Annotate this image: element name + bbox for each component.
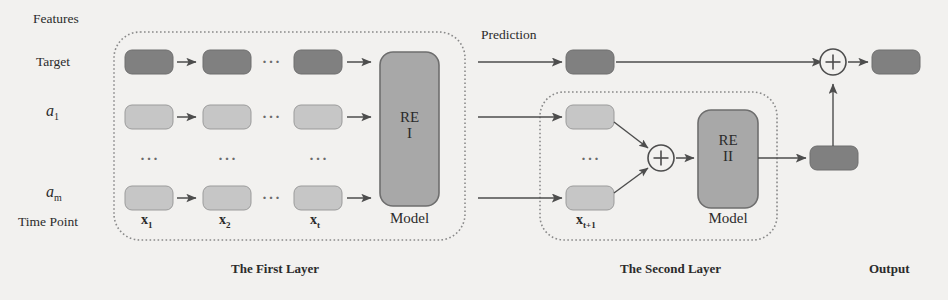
re-one-line2: I xyxy=(380,126,439,142)
target-box-t1 xyxy=(125,50,173,74)
feature-a1-box-t2 xyxy=(203,105,251,129)
target-row-label: Target xyxy=(36,55,70,69)
re-two-model-label: RE II xyxy=(698,133,758,165)
output-caption: Output xyxy=(869,262,909,275)
second-layer-box-top xyxy=(566,105,614,129)
target-box-t2 xyxy=(203,50,251,74)
ellipsis-row-am: ··· xyxy=(262,191,282,206)
feature-am-row-label: am xyxy=(46,184,62,203)
time-tick-t: xt xyxy=(310,213,320,230)
re-two-line2: II xyxy=(698,149,758,165)
diagram-svg xyxy=(0,0,948,300)
feature-a1-box-tt xyxy=(294,105,342,129)
re-one-line1: RE xyxy=(380,110,439,126)
feature-am-box-t2 xyxy=(203,186,251,210)
feature-a1-row-label: a1 xyxy=(46,103,59,122)
time-tick-1: x1 xyxy=(141,213,153,230)
time-tick-2: x2 xyxy=(219,213,231,230)
first-layer-caption: The First Layer xyxy=(231,262,319,275)
ellipsis-column-t1: ··· xyxy=(140,152,160,167)
re-one-model-caption: Model xyxy=(380,211,439,226)
re-one-model-label: RE I xyxy=(380,110,439,142)
ellipsis-column-t2: ··· xyxy=(218,152,238,167)
second-layer-box-bottom xyxy=(566,186,614,210)
re-two-model-caption: Model xyxy=(698,211,758,226)
feature-am-box-tt xyxy=(294,186,342,210)
second-layer-caption: The Second Layer xyxy=(620,262,721,275)
feature-am-box-t1 xyxy=(125,186,173,210)
features-axis-label: Features xyxy=(33,12,79,26)
ellipsis-row-a1: ··· xyxy=(262,110,282,125)
prediction-box xyxy=(566,50,614,74)
diagram-canvas: Features Target a1 am Time Point ··· ···… xyxy=(0,0,948,300)
feature-a1-box-t1 xyxy=(125,105,173,129)
ellipsis-second-layer: ··· xyxy=(581,152,601,167)
arrow-second-top-to-sum xyxy=(614,122,648,148)
time-point-axis-label: Time Point xyxy=(18,215,78,229)
target-box-tt xyxy=(294,50,342,74)
prediction-label: Prediction xyxy=(481,28,537,42)
ellipsis-column-tt: ··· xyxy=(309,152,329,167)
re-two-line1: RE xyxy=(698,133,758,149)
time-tick-t-plus-1: xt+1 xyxy=(576,213,596,230)
output-box xyxy=(872,50,920,74)
arrow-second-bottom-to-sum xyxy=(614,168,648,193)
ellipsis-row-target: ··· xyxy=(262,55,282,70)
residual-output-box xyxy=(810,146,858,170)
